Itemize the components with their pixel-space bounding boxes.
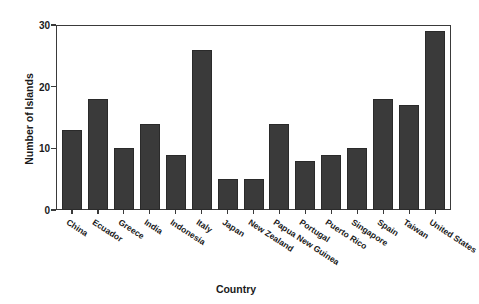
bar: [295, 161, 315, 210]
bar: [62, 130, 82, 210]
bar-slot: [292, 25, 318, 210]
x-axis-title: Country: [0, 283, 472, 295]
bar-slot: [189, 25, 215, 210]
bars-container: [56, 25, 451, 210]
bar: [347, 148, 367, 210]
y-tick-label: 0: [26, 205, 50, 216]
bar-slot: [137, 25, 163, 210]
x-tick-mark: [175, 210, 176, 214]
x-tick-mark: [227, 210, 228, 214]
x-label-slot: Japan: [215, 215, 241, 283]
x-tick-mark: [149, 210, 150, 214]
x-tick-label: India: [142, 217, 164, 236]
bar: [218, 179, 238, 210]
y-tick-label: 30: [26, 20, 50, 31]
x-tick-mark: [305, 210, 306, 214]
bar-slot: [59, 25, 85, 210]
bar: [166, 155, 186, 211]
bar-slot: [344, 25, 370, 210]
x-label-slot: China: [59, 215, 85, 283]
bar-slot: [215, 25, 241, 210]
y-tick-label: 20: [26, 81, 50, 92]
bar: [192, 50, 212, 210]
bar-slot: [163, 25, 189, 210]
bar-slot: [241, 25, 267, 210]
bar: [244, 179, 264, 210]
bar-slot: [267, 25, 293, 210]
x-tick-mark: [435, 210, 436, 214]
bar: [425, 31, 445, 210]
x-label-slot: Papua New Guinea: [267, 215, 293, 283]
x-tick-label: United States: [428, 217, 479, 255]
x-tick-mark: [253, 210, 254, 214]
x-axis-labels: ChinaEcuadorGreeceIndiaIndonesiaItalyJap…: [56, 215, 451, 283]
x-tick-mark: [97, 210, 98, 214]
x-tick-mark: [201, 210, 202, 214]
x-tick-mark: [331, 210, 332, 214]
bar: [321, 155, 341, 211]
y-axis-ticks: 0102030: [0, 0, 50, 304]
bar-slot: [318, 25, 344, 210]
x-tick-mark: [71, 210, 72, 214]
x-tick-mark: [357, 210, 358, 214]
x-label-slot: Ecuador: [85, 215, 111, 283]
x-label-slot: Puerto Rico: [318, 215, 344, 283]
bar: [373, 99, 393, 210]
x-tick-mark: [123, 210, 124, 214]
x-label-slot: Spain: [370, 215, 396, 283]
bar: [399, 105, 419, 210]
x-label-slot: Indonesia: [163, 215, 189, 283]
bar: [88, 99, 108, 210]
bar: [114, 148, 134, 210]
bar-slot: [85, 25, 111, 210]
x-tick-mark: [383, 210, 384, 214]
bar-slot: [396, 25, 422, 210]
bar-slot: [111, 25, 137, 210]
y-tick-label: 10: [26, 143, 50, 154]
x-label-slot: Italy: [189, 215, 215, 283]
bar: [140, 124, 160, 210]
x-label-slot: Greece: [111, 215, 137, 283]
x-label-slot: India: [137, 215, 163, 283]
x-label-slot: Taiwan: [396, 215, 422, 283]
x-label-slot: Portugal: [292, 215, 318, 283]
x-tick-mark: [279, 210, 280, 214]
x-tick-mark: [409, 210, 410, 214]
x-label-slot: Singapore: [344, 215, 370, 283]
x-tick-label: Italy: [194, 217, 214, 235]
bar: [269, 124, 289, 210]
x-label-slot: United States: [422, 215, 448, 283]
x-label-slot: New Zealand: [241, 215, 267, 283]
bar-slot: [422, 25, 448, 210]
bar-slot: [370, 25, 396, 210]
